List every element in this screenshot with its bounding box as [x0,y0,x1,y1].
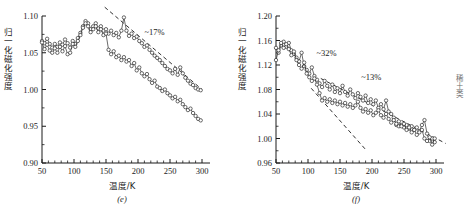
svg-text:1.05: 1.05 [23,48,38,58]
svg-text:50: 50 [38,166,47,176]
svg-text:1.10: 1.10 [23,11,38,21]
svg-text:100: 100 [302,166,315,176]
svg-text:250: 250 [164,166,177,176]
chart-panel-e: 0.900.951.001.051.1050100150200250300 归一… [0,0,232,220]
svg-text:300: 300 [196,166,209,176]
svg-text:1.00: 1.00 [257,134,272,144]
svg-text:50: 50 [272,166,281,176]
y-axis-label-e: 归一化磁化强度 [2,28,11,91]
svg-text:1.12: 1.12 [257,60,272,70]
svg-text:0.95: 0.95 [23,121,38,131]
svg-text:200: 200 [132,166,145,176]
svg-text:0.90: 0.90 [23,158,38,168]
svg-text:1.08: 1.08 [257,85,272,95]
x-axis-label-f: 温度/K [296,179,416,191]
panel-label-f: (f) [326,194,386,204]
svg-text:1.16: 1.16 [257,36,272,46]
svg-text:250: 250 [398,166,411,176]
svg-text:1.00: 1.00 [23,85,38,95]
panel-label-e: (e) [92,194,152,204]
figure-sheet: 0.900.951.001.051.1050100150200250300 归一… [0,0,465,220]
annotation-f-1: ~13% [361,72,381,82]
svg-text:0.96: 0.96 [257,158,272,168]
svg-text:300: 300 [430,166,443,176]
svg-text:1.20: 1.20 [257,11,272,21]
annotation-e-0: ~17% [144,27,164,37]
svg-text:200: 200 [366,166,379,176]
x-axis-label-e: 温度/K [62,179,182,191]
svg-text:150: 150 [100,166,113,176]
page-edge-text: 稀土类 [455,74,463,98]
annotation-f-0: ~32% [316,48,336,58]
svg-text:1.04: 1.04 [257,109,273,119]
chart-panel-f: 0.961.001.041.081.121.161.20501001502002… [232,0,464,220]
svg-text:100: 100 [68,166,81,176]
y-axis-label-f: 归一化磁化强度 [236,28,245,91]
svg-text:150: 150 [334,166,347,176]
